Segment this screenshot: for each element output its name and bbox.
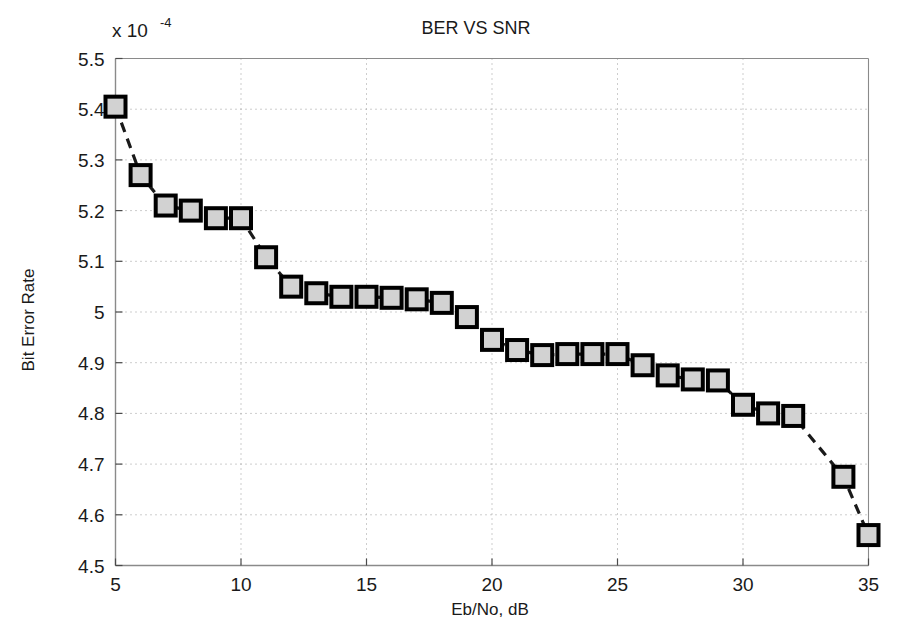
data-point-marker (633, 355, 653, 375)
data-point-marker (532, 345, 552, 365)
y-axis-multiplier: x 10 (112, 20, 148, 41)
data-point-marker (833, 467, 853, 487)
data-point-marker (557, 344, 577, 364)
data-point-marker (281, 277, 301, 297)
data-point-marker (181, 201, 201, 221)
y-tick-label: 5.3 (78, 150, 104, 171)
x-tick-label: 15 (356, 574, 377, 595)
data-point-marker (131, 165, 151, 185)
y-tick-label: 4.6 (78, 505, 104, 526)
data-point-marker (231, 208, 251, 228)
data-point-marker (357, 287, 377, 307)
data-point-marker (658, 365, 678, 385)
data-point-marker (733, 395, 753, 415)
data-point-marker (457, 307, 477, 327)
y-tick-label: 4.9 (78, 353, 104, 374)
data-point-marker (783, 406, 803, 426)
data-point-marker (507, 340, 527, 360)
y-tick-label: 5 (94, 302, 105, 323)
data-point-marker (306, 283, 326, 303)
data-point-marker (582, 344, 602, 364)
chart-title: BER VS SNR (421, 18, 530, 38)
x-tick-label: 10 (230, 574, 251, 595)
x-tick-label: 30 (732, 574, 753, 595)
ber-vs-snr-chart: 4.54.64.74.84.955.15.25.35.45.5 51015202… (0, 0, 919, 636)
data-point-marker (708, 370, 728, 390)
x-tick-label: 35 (858, 574, 879, 595)
data-point-marker (106, 97, 126, 117)
data-point-marker (382, 288, 402, 308)
data-point-marker (407, 289, 427, 309)
y-axis-multiplier-exponent: -4 (160, 15, 172, 30)
data-point-marker (156, 196, 176, 216)
y-tick-label: 4.5 (78, 556, 104, 577)
y-tick-label: 5.1 (78, 251, 104, 272)
y-tick-label: 5.2 (78, 201, 104, 222)
x-tick-label: 5 (110, 574, 121, 595)
data-point-marker (432, 293, 452, 313)
y-tick-label: 4.8 (78, 403, 104, 424)
x-axis-label: Eb/No, dB (451, 600, 529, 619)
x-tick-label: 25 (607, 574, 628, 595)
data-point-marker (859, 525, 879, 545)
data-point-marker (608, 344, 628, 364)
data-point-marker (758, 403, 778, 423)
data-point-marker (206, 208, 226, 228)
y-tick-label: 5.5 (78, 49, 104, 70)
data-point-marker (482, 330, 502, 350)
chart-figure: 4.54.64.74.84.955.15.25.35.45.5 51015202… (0, 0, 919, 636)
data-point-marker (331, 287, 351, 307)
x-tick-label: 20 (481, 574, 502, 595)
data-point-marker (683, 369, 703, 389)
y-axis-label: Bit Error Rate (19, 269, 38, 372)
y-tick-label: 4.7 (78, 454, 104, 475)
y-tick-label: 5.4 (78, 99, 105, 120)
data-point-marker (256, 247, 276, 267)
